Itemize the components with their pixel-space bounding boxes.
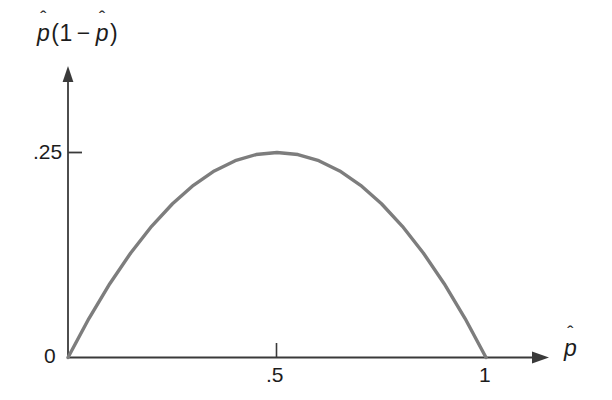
hat-accent-icon: ˆ	[40, 9, 47, 27]
y-label-phat-2: ˆp	[95, 20, 110, 46]
x-tick-label-05: .5	[266, 364, 284, 385]
y-label-one: 1	[59, 20, 72, 46]
y-axis-label: ˆp(1−ˆp)	[36, 22, 118, 45]
parabola-curve	[68, 153, 486, 358]
plot-canvas	[0, 0, 612, 400]
y-axis	[63, 66, 74, 358]
origin-label-zero: 0	[44, 345, 56, 366]
y-label-minus: −	[73, 20, 95, 46]
x-axis	[68, 352, 549, 364]
y-label-phat-1: ˆp	[36, 20, 51, 46]
x-axis-arrowhead	[532, 352, 549, 364]
hat-accent-icon: ˆ	[567, 324, 573, 342]
x-tick-label-1: 1	[479, 364, 491, 385]
y-axis-arrowhead	[63, 66, 74, 82]
y-label-close-paren: )	[110, 20, 118, 46]
y-tick-label-025: .25	[33, 141, 62, 162]
hat-accent-icon: ˆ	[99, 9, 106, 27]
x-axis-label: ˆp	[563, 337, 578, 360]
x-label-phat: ˆp	[563, 335, 578, 361]
chart-figure: ˆp(1−ˆp) .25 0 .5 1 ˆp	[0, 0, 612, 400]
